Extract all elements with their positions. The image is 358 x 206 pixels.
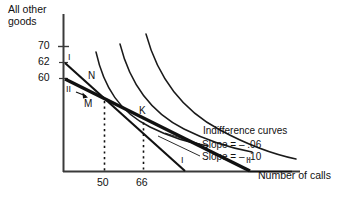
y-axis-title: All other goods — [8, 4, 47, 28]
point-label-k: K — [139, 105, 146, 116]
y-tick-label-60: 60 — [38, 72, 50, 84]
x-tick-label-66: 66 — [136, 177, 148, 189]
budget-line-1-end-label: I — [181, 155, 184, 165]
indifference-curves-legend: Indifference curves — [203, 125, 287, 136]
budget-line-1-intercept-label: I — [68, 52, 71, 62]
indifference-curve-figure: All other goods 70 62 60 50 66 I II I II… — [0, 0, 358, 206]
x-tick-label-50: 50 — [97, 177, 109, 189]
x-axis-title: Number of calls — [258, 170, 331, 182]
slope-label-upper: Slope = – .06 — [202, 139, 261, 150]
budget-line-2-intercept-label: II — [66, 84, 71, 94]
y-tick-label-62: 62 — [38, 56, 50, 68]
point-label-n: N — [88, 70, 95, 81]
budget-line-1 — [65, 63, 185, 171]
y-tick-label-70: 70 — [38, 40, 50, 52]
point-label-m: M — [84, 98, 92, 109]
slope-label-lower: Slope = – .10 — [202, 151, 261, 162]
